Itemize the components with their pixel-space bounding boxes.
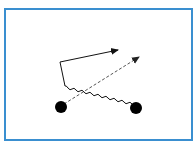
diagram-border xyxy=(5,9,192,140)
left-particle-dot xyxy=(55,101,67,113)
diagram-canvas xyxy=(0,0,196,144)
right-particle-dot xyxy=(130,102,142,114)
diagram-svg xyxy=(0,0,196,144)
